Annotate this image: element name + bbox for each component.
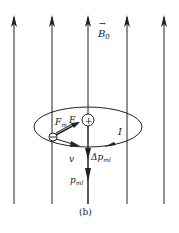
velocity-label: v: [69, 154, 74, 164]
delta-p-label: Δpml: [90, 152, 111, 163]
force-m-label: Fm: [54, 117, 67, 128]
vector-arrow: →: [99, 19, 106, 28]
caption: (b): [79, 207, 92, 217]
arrowheads: [11, 15, 167, 27]
current-arrow: [104, 142, 116, 147]
p-label: pml: [70, 175, 83, 186]
current-label: I: [117, 126, 123, 137]
p-arrowhead: [85, 168, 91, 182]
force-e-label: Fe: [68, 115, 79, 126]
magnetic-moment-diagram: B0 → I + Fm Fe v Δpml pml (b): [0, 0, 179, 233]
nucleus-sign: +: [85, 115, 93, 126]
field-label: B0: [97, 28, 110, 41]
